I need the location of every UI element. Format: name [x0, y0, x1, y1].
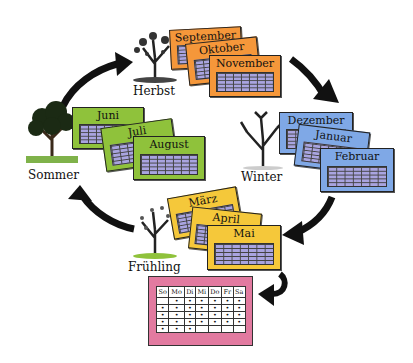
- day-header: Fr: [222, 287, 233, 298]
- week-table: So Mo Di Mi Do Fr Sa •••••• ••••••• ••••…: [156, 286, 246, 333]
- month-calendar-august: August: [133, 136, 205, 180]
- week-row: •••: [157, 326, 246, 333]
- day-header: Mo: [169, 287, 184, 298]
- arrow-winter-to-fruehling-icon: [280, 195, 340, 245]
- day-header: Di: [184, 287, 195, 298]
- month-calendar-mai: Mai: [207, 225, 281, 270]
- season-label-sommer: Sommer: [28, 168, 79, 182]
- day-header: Mi: [195, 287, 208, 298]
- season-label-winter: Winter: [241, 170, 282, 184]
- day-header: So: [157, 287, 169, 298]
- arrow-to-week-calendar-icon: [256, 270, 296, 310]
- month-calendar-februar: Februar: [320, 148, 394, 192]
- week-calendar: So Mo Di Mi Do Fr Sa •••••• ••••••• ••••…: [148, 276, 253, 346]
- season-label-herbst: Herbst: [133, 84, 175, 98]
- season-label-fruehling: Frühling: [128, 260, 181, 274]
- week-row: •••••••: [157, 319, 246, 326]
- arrow-fruehling-to-sommer-icon: [58, 185, 138, 235]
- arrow-herbst-to-winter-icon: [285, 55, 345, 115]
- day-header: Sa: [233, 287, 245, 298]
- day-header: Do: [208, 287, 221, 298]
- month-calendar-november: November: [209, 55, 281, 97]
